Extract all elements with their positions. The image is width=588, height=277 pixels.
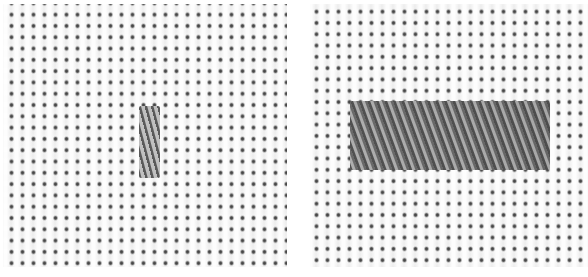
stitch-row-band xyxy=(350,101,550,170)
canvas-panel-left xyxy=(3,4,287,267)
single-stitch xyxy=(139,106,160,178)
